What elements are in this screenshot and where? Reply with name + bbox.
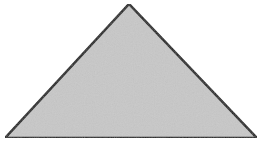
diagram-canvas	[0, 0, 273, 145]
triangle-shape	[5, 4, 257, 138]
triangle-figure	[0, 0, 273, 145]
